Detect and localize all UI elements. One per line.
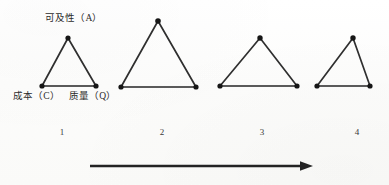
- triangle-1-apex-node: [65, 35, 70, 40]
- triangle-3-apex-node: [257, 35, 262, 40]
- triangle-2-left-edge: [121, 21, 158, 87]
- stage-index-2: 2: [152, 128, 172, 137]
- triangle-3-right-edge: [260, 38, 297, 86]
- quality-vertex-label: 质量（Q）: [69, 92, 116, 102]
- triangle-1-base-left-node: [39, 83, 44, 88]
- figure-container: 可及性（A） 成本（C） 质量（Q） 1 2 3 4: [0, 0, 389, 185]
- triangle-2-base-right-node: [193, 84, 198, 89]
- triangle-3-base-left-node: [217, 83, 222, 88]
- triangle-2-apex-node: [155, 18, 161, 24]
- triangle-1-left-edge: [42, 38, 68, 86]
- triangle-stage-4: [314, 35, 372, 88]
- triangle-4-left-edge: [317, 38, 353, 86]
- triangle-2-base-left-node: [118, 84, 123, 89]
- stage-index-3: 3: [252, 128, 272, 137]
- triangle-stage-3: [217, 35, 299, 88]
- triangle-4-right-edge: [353, 38, 370, 86]
- stage-index-4: 4: [347, 128, 367, 137]
- triangle-stage-2: [118, 18, 198, 89]
- triangle-1-right-edge: [68, 38, 96, 86]
- triangle-4-base-right-node: [367, 83, 372, 88]
- triangle-4-base-left-node: [314, 83, 319, 88]
- arrow-head-icon: [300, 161, 313, 171]
- triangle-3-left-edge: [220, 38, 260, 86]
- accessibility-vertex-label: 可及性（A）: [45, 14, 102, 24]
- cost-vertex-label: 成本（C）: [13, 92, 60, 102]
- triangle-1-base-right-node: [93, 83, 98, 88]
- stage-index-1: 1: [52, 128, 72, 137]
- progression-arrow: [90, 161, 313, 171]
- triangle-3-base-right-node: [294, 83, 299, 88]
- triangle-stage-1: [39, 35, 98, 88]
- triangle-4-apex-node: [350, 35, 355, 40]
- triangle-2-right-edge: [158, 21, 196, 87]
